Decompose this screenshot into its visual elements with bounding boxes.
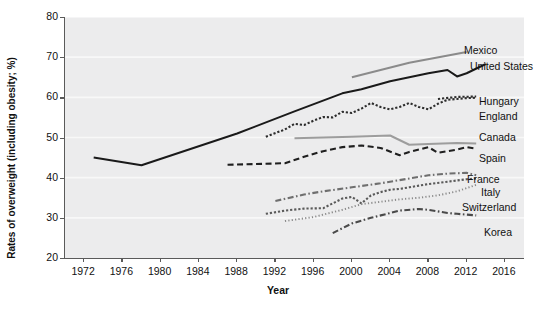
x-axis-tickmark <box>274 258 275 262</box>
y-axis-tick: 40 <box>30 171 58 183</box>
x-axis-tickmark <box>121 258 122 262</box>
y-axis-tick: 50 <box>30 131 58 143</box>
x-axis-tick: 2016 <box>481 265 527 277</box>
y-axis-title: Rates of overweight (including obesity; … <box>0 0 24 315</box>
x-axis-tickmark <box>504 258 505 262</box>
series-line-korea <box>333 209 476 233</box>
y-axis-tick: 60 <box>30 90 58 102</box>
series-label-canada: Canada <box>479 131 516 143</box>
x-axis-tickmark <box>427 258 428 262</box>
x-axis-tickmark <box>389 258 390 262</box>
y-axis-tick: 70 <box>30 50 58 62</box>
series-label-france: France <box>467 173 500 185</box>
series-label-mexico: Mexico <box>464 44 497 56</box>
series-label-spain: Spain <box>479 152 506 164</box>
series-line-hungary <box>266 98 476 137</box>
y-axis-tick: 20 <box>30 251 58 263</box>
x-axis-tickmark <box>466 258 467 262</box>
series-label-england: England <box>479 110 518 122</box>
x-axis-tickmark <box>83 258 84 262</box>
series-line-united-states <box>94 64 486 165</box>
y-axis-tick: 30 <box>30 211 58 223</box>
y-axis-tick: 80 <box>30 10 58 22</box>
x-axis-tickmark <box>351 258 352 262</box>
plot-area <box>64 17 524 259</box>
series-canvas <box>65 17 524 258</box>
series-label-korea: Korea <box>484 226 512 238</box>
series-line-mexico <box>352 52 467 77</box>
x-axis-tickmark <box>160 258 161 262</box>
x-axis-title: Year <box>0 284 556 296</box>
series-label-italy: Italy <box>481 186 500 198</box>
x-axis-tickmark <box>236 258 237 262</box>
chart-root: Rates of overweight (including obesity; … <box>0 0 556 315</box>
series-label-switzerland: Switzerland <box>462 201 516 213</box>
series-line-spain <box>228 146 477 165</box>
series-label-hungary: Hungary <box>479 95 519 107</box>
x-axis-tickmark <box>198 258 199 262</box>
y-axis-title-text: Rates of overweight (including obesity; … <box>6 57 17 259</box>
series-label-united-states: United States <box>470 60 533 72</box>
x-axis-tickmark <box>313 258 314 262</box>
